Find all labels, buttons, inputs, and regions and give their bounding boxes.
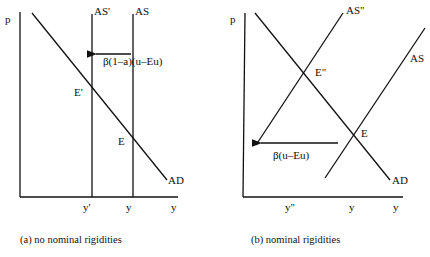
diagram-canvas: p AD AS' AS β(1–a)(u–Eu) E' E y' y y (a)… — [0, 0, 430, 257]
panel-b: p AD AS" AS β(u–Eu) E" E y" y y (b) nomi… — [230, 4, 425, 246]
panel-a-as-label: AS — [135, 5, 149, 17]
panel-b-as-curve — [325, 28, 425, 178]
panel-a: p AD AS' AS β(1–a)(u–Eu) E' E y' y y (a)… — [5, 5, 184, 246]
panel-b-e-shift-label: E" — [315, 66, 326, 78]
panel-b-x-axis-label: y — [393, 201, 399, 213]
panel-b-y-axis — [243, 13, 245, 197]
panel-a-tick-y-shift: y' — [83, 201, 91, 213]
panel-b-as-shift-label: AS" — [346, 4, 365, 16]
panel-a-p-label: p — [5, 13, 11, 25]
panel-b-tick-y: y — [349, 201, 355, 213]
panel-a-ad-label: AD — [168, 174, 184, 186]
panel-b-tick-y-shift: y" — [285, 201, 295, 213]
panel-b-p-label: p — [230, 13, 236, 25]
panel-a-x-axis-label: y — [171, 201, 177, 213]
panel-b-e-label: E — [361, 127, 368, 139]
panel-b-as-label: AS — [410, 52, 424, 64]
panel-b-ad-label: AD — [392, 174, 408, 186]
panel-b-as-shift-curve — [256, 13, 343, 145]
panel-a-e-shift-label: E' — [74, 86, 83, 98]
panel-b-shift-label: β(u–Eu) — [273, 149, 309, 162]
panel-b-caption: (b) nominal rigidities — [251, 234, 340, 246]
panel-a-as-shift-label: AS' — [94, 5, 110, 17]
panel-a-e-label: E — [118, 135, 125, 147]
panel-a-ad-curve — [32, 13, 167, 180]
panel-a-tick-y: y — [126, 201, 132, 213]
panel-a-caption: (a) no nominal rigidities — [20, 234, 122, 246]
panel-a-shift-label: β(1–a)(u–Eu) — [103, 55, 163, 68]
